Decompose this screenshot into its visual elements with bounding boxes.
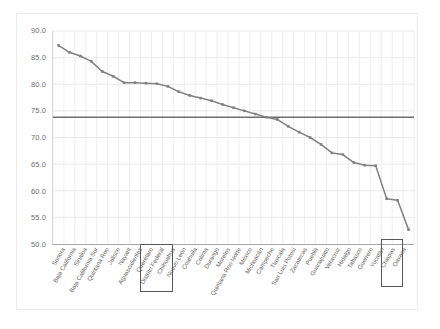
series-marker [232,106,235,109]
series-marker [342,153,345,156]
series-marker [112,75,115,78]
series-marker [320,143,323,146]
series-marker [254,113,257,116]
series-marker [145,82,148,85]
y-axis-tick-label: 60.0 [4,187,46,196]
series-marker [68,51,71,54]
chart-figure: 90.085.080.075.070.065.060.055.050.0 Son… [0,0,440,329]
series-marker [396,199,399,202]
y-axis-tick-label: 75.0 [4,106,46,115]
y-axis-tick-label: 55.0 [4,213,46,222]
y-axis-tick-label: 65.0 [4,160,46,169]
series-marker [199,97,202,100]
series-marker [101,70,104,73]
series-marker [298,131,301,134]
y-axis-tick-label: 85.0 [4,53,46,62]
y-axis-tick-label: 70.0 [4,133,46,142]
series-marker [134,81,137,84]
series-marker [309,136,312,139]
y-axis-tick-label: 90.0 [4,26,46,35]
series-marker [90,60,93,63]
series-marker [353,161,356,164]
series-marker [363,164,366,167]
series-marker [287,125,290,128]
series-marker [374,164,377,167]
series-marker [123,81,126,84]
series-marker [385,197,388,200]
series-marker [57,44,60,47]
series-marker [79,55,82,58]
series-marker [243,110,246,113]
category-highlight-box [381,239,403,287]
series-line [58,45,408,229]
series-marker [407,228,410,231]
series-marker [265,116,268,119]
series-marker [276,118,279,121]
y-axis-tick-label: 50.0 [4,240,46,249]
plot-area [52,31,414,245]
series-marker [188,94,191,97]
y-axis-tick-label: 80.0 [4,80,46,89]
category-highlight-box [140,244,173,292]
series-marker [167,85,170,88]
series-marker [221,103,224,106]
data-series-layer [53,31,414,244]
series-marker [156,82,159,85]
x-axis-category-labels: SonoraBaja CaliforniaSinaloaBaja Califor… [52,246,414,308]
series-marker [331,152,334,155]
series-marker [210,99,213,102]
series-marker [178,90,181,93]
